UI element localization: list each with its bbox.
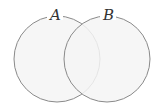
set-b-label: B [102,6,114,24]
set-b-circle [64,16,150,102]
venn-diagram: A B [0,0,159,111]
set-a-label: A [48,6,61,24]
